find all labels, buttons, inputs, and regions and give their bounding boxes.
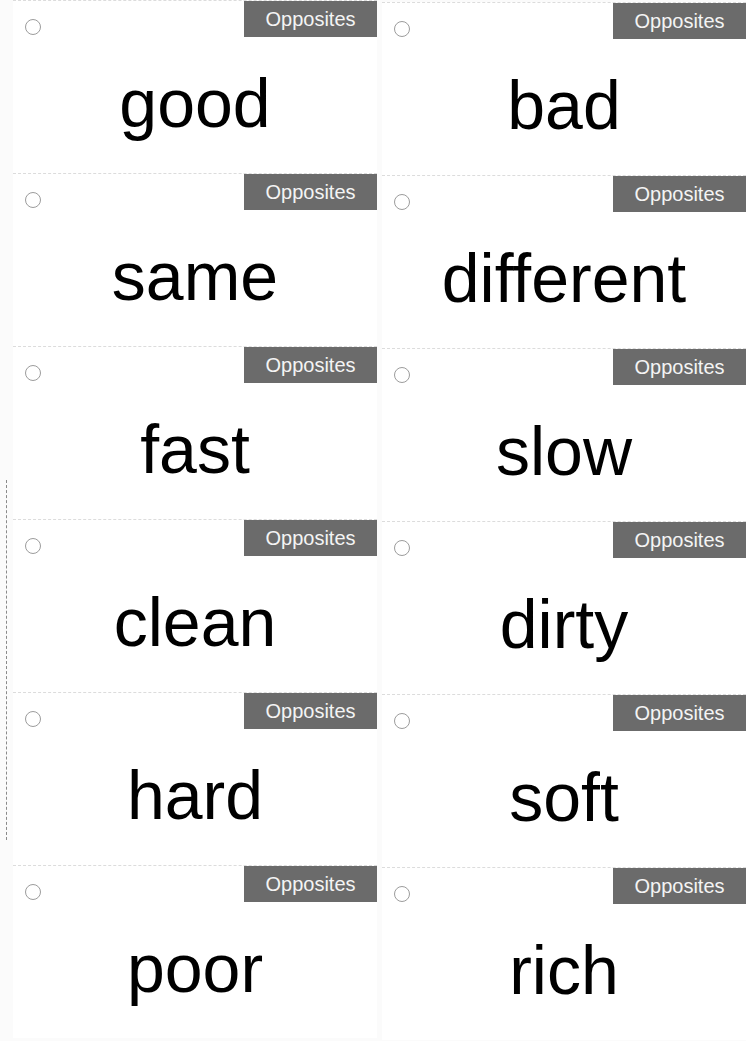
- card-word: fast: [13, 409, 377, 489]
- card-word: soft: [382, 757, 746, 837]
- category-badge: Opposites: [244, 1, 377, 37]
- flashcard-slow: Opposites slow: [382, 348, 746, 521]
- category-badge: Opposites: [613, 868, 746, 904]
- category-badge: Opposites: [244, 347, 377, 383]
- card-word: different: [382, 238, 746, 318]
- card-word: poor: [13, 928, 377, 1008]
- punch-hole-icon: [394, 21, 410, 37]
- punch-hole-icon: [25, 711, 41, 727]
- category-badge: Opposites: [613, 522, 746, 558]
- category-badge: Opposites: [613, 695, 746, 731]
- flashcard-bad: Opposites bad: [382, 2, 746, 175]
- category-badge: Opposites: [613, 176, 746, 212]
- card-word: rich: [382, 930, 746, 1010]
- card-word: slow: [382, 411, 746, 491]
- punch-hole-icon: [394, 713, 410, 729]
- punch-hole-icon: [25, 365, 41, 381]
- punch-hole-icon: [394, 194, 410, 210]
- flashcard-poor: Opposites poor: [13, 865, 377, 1038]
- card-word: hard: [13, 755, 377, 835]
- card-word: same: [13, 236, 377, 316]
- flashcard-fast: Opposites fast: [13, 346, 377, 519]
- flashcard-dirty: Opposites dirty: [382, 521, 746, 694]
- card-word: dirty: [382, 584, 746, 664]
- category-badge: Opposites: [613, 349, 746, 385]
- punch-hole-icon: [25, 19, 41, 35]
- punch-hole-icon: [25, 884, 41, 900]
- category-badge: Opposites: [244, 693, 377, 729]
- flashcard-hard: Opposites hard: [13, 692, 377, 865]
- cut-line: [6, 480, 7, 840]
- category-badge: Opposites: [613, 3, 746, 39]
- flashcard-same: Opposites same: [13, 173, 377, 346]
- flashcard-different: Opposites different: [382, 175, 746, 348]
- punch-hole-icon: [394, 540, 410, 556]
- category-badge: Opposites: [244, 174, 377, 210]
- flashcard-soft: Opposites soft: [382, 694, 746, 867]
- flashcard-good: Opposites good: [13, 0, 377, 173]
- flashcard-sheet: Opposites good Opposites bad Opposites s…: [13, 0, 742, 1041]
- flashcard-rich: Opposites rich: [382, 867, 746, 1040]
- punch-hole-icon: [25, 538, 41, 554]
- card-word: good: [13, 63, 377, 143]
- punch-hole-icon: [394, 886, 410, 902]
- flashcard-clean: Opposites clean: [13, 519, 377, 692]
- card-word: bad: [382, 65, 746, 145]
- category-badge: Opposites: [244, 520, 377, 556]
- punch-hole-icon: [394, 367, 410, 383]
- card-word: clean: [13, 582, 377, 662]
- category-badge: Opposites: [244, 866, 377, 902]
- punch-hole-icon: [25, 192, 41, 208]
